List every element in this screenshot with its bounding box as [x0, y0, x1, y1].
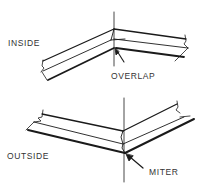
- inside-corner-drawing: [41, 12, 188, 80]
- inside-label: INSIDE: [8, 39, 40, 48]
- miter-callout: MITER: [149, 168, 178, 177]
- outside-label: OUTSIDE: [7, 152, 49, 161]
- corner-joint-diagram: INSIDE OVERLAP OUTSIDE MITER: [0, 0, 202, 187]
- overlap-callout: OVERLAP: [111, 72, 155, 81]
